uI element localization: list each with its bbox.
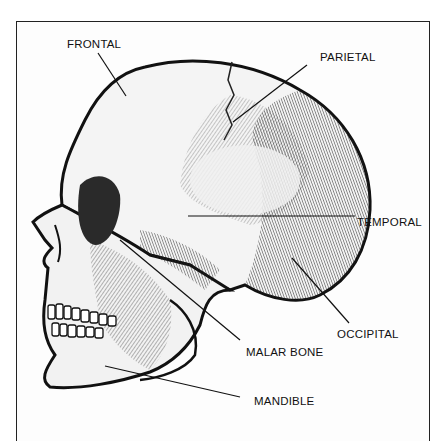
label-malar-bone: MALAR BONE bbox=[246, 346, 323, 358]
label-temporal: TEMPORAL bbox=[357, 216, 422, 228]
label-occipital: OCCIPITAL bbox=[337, 328, 399, 340]
label-mandible: MANDIBLE bbox=[254, 395, 314, 407]
label-frontal: FRONTAL bbox=[67, 38, 121, 50]
label-parietal: PARIETAL bbox=[320, 51, 376, 63]
